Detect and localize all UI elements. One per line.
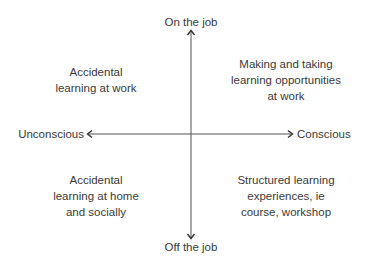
- quadrant-text-line: learning opportunities: [216, 72, 356, 88]
- axis-label-off-the-job: Off the job: [141, 239, 241, 255]
- quadrant-text-line: learning at home: [26, 188, 166, 204]
- quadrant-text-line: course, workshop: [216, 204, 356, 220]
- quadrant-text-line: Accidental: [26, 172, 166, 188]
- quadrant-text-line: learning at work: [26, 80, 166, 96]
- learning-quadrant-diagram: On the job Off the job Unconscious Consc…: [0, 0, 368, 268]
- axis-label-conscious: Conscious: [297, 126, 368, 142]
- quadrant-text-line: Accidental: [26, 64, 166, 80]
- quadrant-bottom-left: Accidental learning at home and socially: [26, 172, 166, 220]
- quadrant-text-line: Making and taking: [216, 56, 356, 72]
- horizontal-axis: [88, 131, 293, 138]
- quadrant-top-left: Accidental learning at work: [26, 64, 166, 96]
- quadrant-text-line: Structured learning: [216, 172, 356, 188]
- quadrant-text-line: and socially: [26, 204, 166, 220]
- quadrant-top-right: Making and taking learning opportunities…: [216, 56, 356, 104]
- quadrant-text-line: at work: [216, 88, 356, 104]
- axis-label-on-the-job: On the job: [141, 14, 241, 30]
- quadrant-bottom-right: Structured learning experiences, ie cour…: [216, 172, 356, 220]
- quadrant-text-line: experiences, ie: [216, 188, 356, 204]
- axis-label-unconscious: Unconscious: [0, 126, 84, 142]
